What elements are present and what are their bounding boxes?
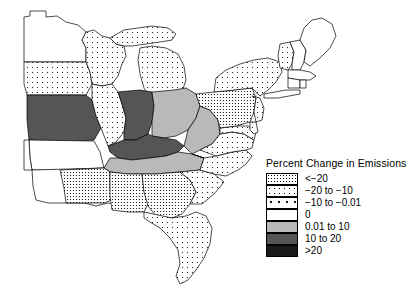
legend-item: 0.01 to 10: [266, 221, 416, 233]
long-island: [264, 90, 300, 98]
legend-label: 0: [305, 209, 311, 221]
state-MS: [60, 168, 112, 203]
state-GA: [142, 172, 196, 218]
map-graphic: [0, 0, 419, 303]
legend-label: 10 to 20: [305, 233, 341, 245]
legend-swatch-dense-dots: [266, 173, 298, 185]
legend-swatch-white: [266, 209, 298, 221]
state-FL: [144, 212, 212, 284]
legend-label: 0.01 to 10: [305, 221, 349, 233]
state-RI: [300, 80, 306, 88]
state-ME: [300, 18, 336, 66]
legend-label: >20: [305, 245, 322, 257]
legend-item: >20: [266, 245, 416, 257]
emissions-choropleth-map: Percent Change in Emissions <−20 −20 to …: [0, 0, 419, 303]
map-legend: Percent Change in Emissions <−20 −20 to …: [266, 157, 416, 257]
legend-label: <−20: [305, 173, 328, 185]
state-MI-upper: [110, 26, 176, 46]
legend-swatch-medium-dots: [266, 185, 298, 197]
legend-swatch-black: [266, 245, 298, 257]
legend-label: −10 to −0.01: [305, 197, 361, 209]
state-IA: [24, 62, 92, 95]
legend-swatch-light-gray: [266, 221, 298, 233]
legend-swatch-dark-gray: [266, 233, 298, 245]
legend-label: −20 to −10: [305, 185, 353, 197]
legend-swatch-sparse-dots: [266, 197, 298, 209]
state-CT: [288, 78, 300, 88]
legend-title: Percent Change in Emissions: [266, 157, 416, 170]
state-MN: [24, 11, 86, 62]
legend-item: 0: [266, 209, 416, 221]
state-MO: [27, 95, 101, 142]
legend-item: <−20: [266, 173, 416, 185]
legend-item: −10 to −0.01: [266, 197, 416, 209]
legend-item: −20 to −10: [266, 185, 416, 197]
legend-item: 10 to 20: [266, 233, 416, 245]
state-AR: [29, 140, 104, 170]
